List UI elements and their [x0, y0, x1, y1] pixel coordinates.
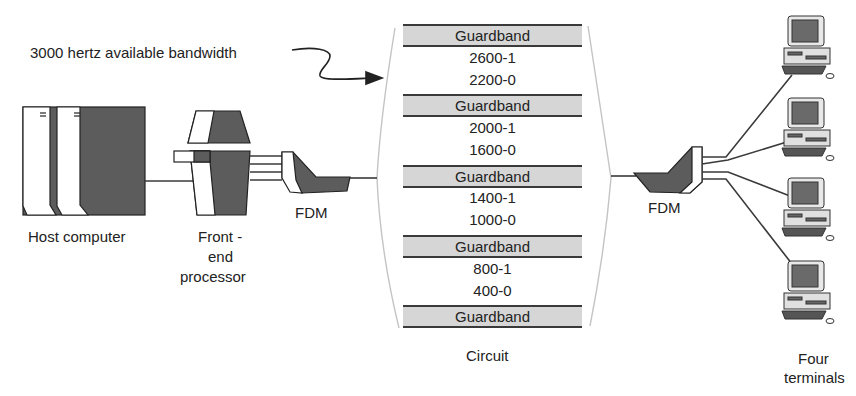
frequency-band: 1600-0 — [403, 139, 582, 161]
frequency-band: 2600-1 — [403, 47, 582, 69]
frequency-band: 2000-1 — [403, 117, 582, 139]
fdm-left-label: FDM — [295, 204, 328, 222]
circuit-label: Circuit — [466, 347, 509, 365]
terminal-icons — [782, 16, 834, 324]
frequency-band: 400-0 — [403, 280, 582, 302]
guardband: Guardband — [403, 235, 582, 258]
frequency-band: 1000-0 — [403, 209, 582, 231]
fdm-right-icon — [634, 147, 702, 193]
guardband: Guardband — [403, 165, 582, 188]
frequency-band: 1400-1 — [403, 187, 582, 209]
fdm-diagram: 3000 hertz available bandwidth Guardband… — [0, 0, 856, 396]
frequency-band: 800-1 — [403, 258, 582, 280]
front-end-processor-icon — [174, 111, 250, 215]
host-computer-icon — [23, 107, 145, 215]
guardband: Guardband — [403, 24, 582, 47]
host-computer-label: Host computer — [28, 228, 126, 246]
guardband: Guardband — [403, 305, 582, 328]
frequency-band: 2200-0 — [403, 69, 582, 91]
link-fep-fdm — [250, 156, 282, 180]
annotation-arrow-icon — [292, 48, 382, 84]
terminal-icon — [782, 261, 834, 324]
bandwidth-annotation: 3000 hertz available bandwidth — [30, 44, 237, 62]
guardband: Guardband — [403, 94, 582, 117]
terminal-icon — [782, 16, 834, 79]
terminal-icon — [782, 178, 834, 241]
terminal-icon — [782, 98, 834, 161]
fdm-right-label: FDM — [648, 199, 681, 217]
links-fdm-terminals — [702, 75, 792, 264]
fdm-left-icon — [282, 152, 350, 193]
